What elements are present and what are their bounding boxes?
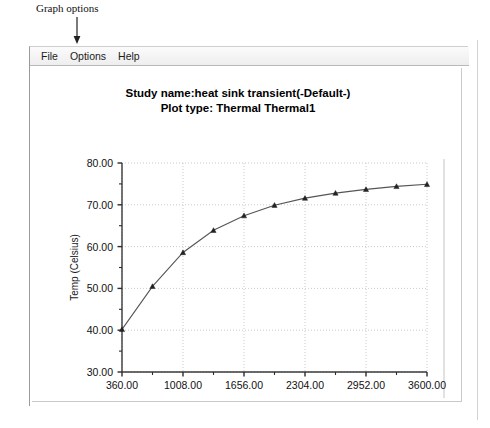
menu-help[interactable]: Help [112,49,146,63]
menu-options[interactable]: Options [64,49,112,63]
grid-layer [122,163,427,372]
tick-label-layer: 360.001008.001656.002304.002952.003600.0… [87,157,446,391]
graph-window: File Options Help Study name:heat sink t… [29,46,468,406]
y-tick-label: 70.00 [87,199,113,211]
thermal-transient-plot[interactable]: 360.001008.001656.002304.002952.003600.0… [32,68,462,402]
y-tick-label: 80.00 [87,157,113,169]
y-tick-label: 30.00 [87,366,113,378]
y-tick-label: 60.00 [87,241,113,253]
menu-bar: File Options Help [30,47,469,66]
y-axis-title: Temp (Celsius) [69,234,80,301]
screenshot-right-edge [477,40,478,420]
x-tick-label: 360.00 [106,379,138,391]
y-tick-label: 40.00 [87,324,113,336]
x-tick-label: 1008.00 [164,379,202,391]
y-tick-label: 50.00 [87,282,113,294]
x-axis-title: Time (sec) [251,401,298,402]
series-layer [119,182,429,332]
x-tick-label: 2952.00 [347,379,385,391]
x-tick-label: 2304.00 [286,379,324,391]
down-arrow-icon [72,17,82,45]
x-tick-label: 3600.00 [408,379,446,391]
x-tick-label: 1656.00 [225,379,263,391]
menu-file[interactable]: File [35,49,64,63]
chart-panel: Study name:heat sink transient(-Default-… [32,68,462,402]
axis-layer [118,159,445,398]
annotation-label: Graph options [36,2,99,14]
series-marker [211,228,216,233]
